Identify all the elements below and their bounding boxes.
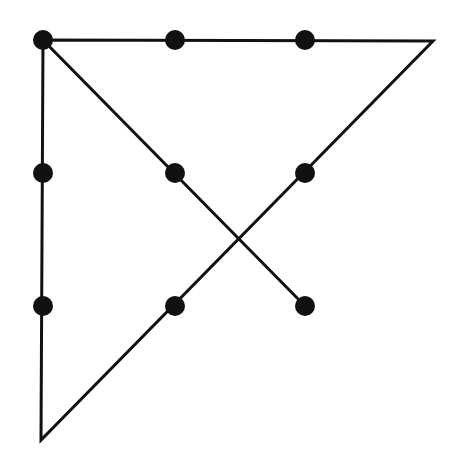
dot-r1-c0 xyxy=(33,163,53,183)
solution-line-path xyxy=(41,40,433,440)
dot-r2-c1 xyxy=(165,296,185,316)
dot-r1-c2 xyxy=(295,163,315,183)
dot-r2-c2 xyxy=(295,296,315,316)
dot-r0-c1 xyxy=(165,30,185,50)
dot-r1-c1 xyxy=(165,163,185,183)
dot-r2-c0 xyxy=(33,296,53,316)
dot-r0-c2 xyxy=(295,30,315,50)
nine-dots-diagram xyxy=(0,0,461,470)
dot-r0-c0 xyxy=(33,30,53,50)
